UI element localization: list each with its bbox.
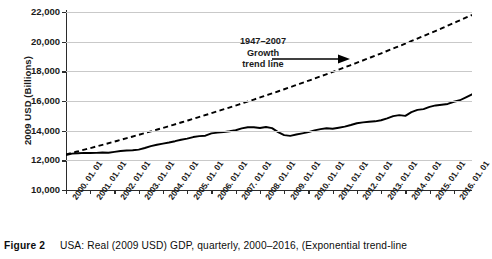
y-tick-label: 16,000 xyxy=(4,95,60,106)
gridline xyxy=(66,101,472,102)
x-tick-mark xyxy=(454,190,455,194)
x-tick-mark xyxy=(333,190,334,194)
y-tick-label: 10,000 xyxy=(4,184,60,195)
x-tick-mark xyxy=(187,190,188,194)
x-tick-mark xyxy=(308,190,309,194)
y-tick-mark xyxy=(62,160,66,161)
x-tick-mark xyxy=(163,190,164,194)
gridline xyxy=(66,71,472,72)
y-tick-label: 18,000 xyxy=(4,65,60,76)
y-tick-mark xyxy=(62,101,66,102)
x-tick-mark xyxy=(66,190,67,194)
y-tick-label: 20,000 xyxy=(4,36,60,47)
x-tick-mark xyxy=(139,190,140,194)
x-tick-mark xyxy=(114,190,115,194)
figure-caption: Figure 2 USA: Real (2009 USD) GDP, quart… xyxy=(4,239,480,252)
y-tick-label: 14,000 xyxy=(4,125,60,136)
y-tick-mark xyxy=(62,131,66,132)
figure-label: Figure 2 xyxy=(4,240,45,251)
x-tick-mark xyxy=(211,190,212,194)
gridline xyxy=(66,12,472,13)
x-tick-mark xyxy=(260,190,261,194)
x-tick-mark xyxy=(405,190,406,194)
figure-caption-text: USA: Real (2009 USD) GDP, quarterly, 200… xyxy=(60,240,407,251)
annotation-line-1: 1947–2007 xyxy=(215,36,311,48)
gdp-line-series xyxy=(66,94,472,155)
y-tick-mark xyxy=(62,71,66,72)
gridline xyxy=(66,131,472,132)
x-tick-mark xyxy=(381,190,382,194)
y-tick-mark xyxy=(62,12,66,13)
y-tick-mark xyxy=(62,42,66,43)
y-tick-label: 12,000 xyxy=(4,154,60,165)
y-tick-label: 22,000 xyxy=(4,6,60,17)
x-tick-mark xyxy=(430,190,431,194)
x-tick-mark xyxy=(236,190,237,194)
x-tick-mark xyxy=(90,190,91,194)
x-tick-mark xyxy=(284,190,285,194)
x-tick-mark xyxy=(357,190,358,194)
right-arrow-icon xyxy=(272,54,350,64)
